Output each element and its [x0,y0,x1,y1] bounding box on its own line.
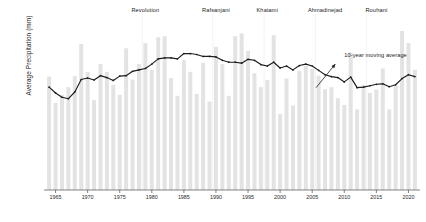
moving-average-point [356,87,358,89]
bar [143,43,147,190]
bar [265,80,269,190]
bar [240,33,244,190]
bar [182,60,186,190]
moving-average-point [395,84,397,86]
bar [304,66,308,190]
bar [233,36,237,190]
moving-average-point [48,86,50,88]
moving-average-point [324,74,326,76]
moving-average-point [388,86,390,88]
bar [291,105,295,190]
moving-average-point [87,77,89,79]
bar [310,69,314,190]
bar [163,36,167,190]
moving-average-point [318,70,320,72]
moving-average-point [305,63,307,65]
bar [47,77,51,190]
bar [131,80,135,191]
moving-average-point [414,76,416,78]
moving-average-point [241,62,243,64]
moving-average-point [292,69,294,71]
moving-average-point [170,57,172,59]
moving-average-point [145,68,147,70]
moving-average-point [228,61,230,63]
bar [169,78,173,190]
bar [355,109,359,190]
moving-average-point [112,80,114,82]
moving-average-callout-label: 10-year moving average [344,52,407,58]
moving-average-point [266,65,268,67]
bar [201,63,205,190]
bar [137,64,141,190]
bar [368,93,372,190]
moving-average-point [382,83,384,85]
moving-average-line [49,54,415,99]
bar [66,87,70,190]
moving-average-point [61,96,63,98]
moving-average-point [196,54,198,56]
moving-average-point [125,75,127,77]
moving-average-point [337,77,339,79]
moving-average-point [222,59,224,61]
moving-average-point [177,58,179,60]
moving-average-point [209,56,211,58]
bar [387,109,391,190]
bar [278,114,282,190]
precipitation-chart-figure: Average Precipitation (mm) 2550751001251… [0,0,426,222]
bar [195,94,199,190]
moving-average-point [363,86,365,88]
bar [297,71,301,190]
moving-average-point [80,79,82,81]
bar [124,48,128,190]
bar [111,85,115,190]
bar [342,105,346,190]
moving-average-point [234,61,236,63]
moving-average-point [286,65,288,67]
bar [54,103,58,190]
moving-average-point [183,53,185,55]
bar [252,73,256,190]
moving-average-point [247,58,249,60]
bar [259,87,263,190]
bar [349,53,353,190]
bar [285,79,289,190]
era-label: Revolution [131,7,159,13]
moving-average-point [260,64,262,66]
bar [188,72,192,190]
moving-average-point [68,98,70,100]
moving-average-point [151,63,153,65]
bar [92,100,96,190]
bar [86,72,90,190]
bar [381,68,385,190]
bar [118,95,122,190]
bar [246,51,250,190]
plot-canvas [0,0,426,222]
bar [329,87,333,190]
bar [413,70,417,190]
moving-average-point [100,75,102,77]
bar [79,44,83,190]
era-label: Rouhani [365,7,387,13]
moving-average-point [189,53,191,55]
bar [317,76,321,190]
bar [214,47,218,190]
moving-average-point [376,83,378,85]
bar [208,102,212,190]
moving-average-point [254,59,256,61]
bar [105,72,109,190]
bar [272,35,276,190]
bar [394,86,398,190]
bar [336,98,340,190]
bar [374,90,378,190]
bar [98,64,102,190]
moving-average-point [93,79,95,81]
bar [175,96,179,190]
moving-average-point [119,75,121,77]
moving-average-point [132,70,134,72]
bar [362,85,366,190]
bar [406,43,410,190]
moving-average-point [279,67,281,69]
moving-average-point [343,81,345,83]
era-label: Ahmadinejad [308,7,342,13]
bar [60,95,64,190]
